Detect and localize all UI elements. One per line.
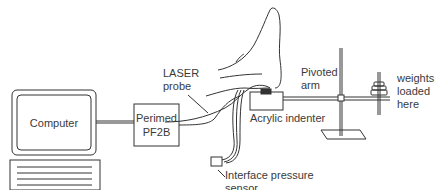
perimed-label: Perimed PF2B [134, 111, 179, 139]
pivoted-arm-label-line1: Pivoted [301, 66, 338, 79]
weights-label-line1: weights [397, 72, 434, 85]
laser-probe-label-line1: LASER [163, 67, 199, 80]
pressure-sensor-label-line1: Interface pressure [225, 169, 314, 182]
laser-probe-label: LASER probe [163, 67, 199, 93]
acrylic-indenter [250, 92, 283, 110]
indenter-contact [261, 89, 271, 94]
pressure-sensor-box [211, 157, 222, 166]
foot-outline [165, 8, 281, 122]
pivoted-arm-label: Pivoted arm [301, 66, 338, 92]
perimed-label-line2: PF2B [134, 125, 179, 139]
leader-pressure-sensor [218, 170, 225, 177]
cable-laser-probe [179, 96, 240, 125]
acrylic-indenter-label: Acrylic indenter [250, 112, 325, 125]
pressure-sensor-label: Interface pressure sensor [225, 169, 314, 190]
computer-keyboard [10, 160, 100, 190]
stand-base [321, 130, 366, 139]
perimed-label-line1: Perimed [134, 111, 179, 125]
weights-label-line2: loaded [397, 85, 434, 98]
weight-disc-2 [372, 86, 386, 90]
pivoted-arm-label-line2: arm [301, 79, 338, 92]
pivot-joint [338, 95, 344, 101]
computer-label: Computer [17, 116, 91, 130]
weights-label-line3: here [397, 98, 434, 111]
diagram-canvas [0, 0, 440, 190]
weight-disc-3 [371, 90, 387, 95]
laser-probe-label-line2: probe [163, 80, 199, 93]
weights-label: weights loaded here [397, 72, 434, 111]
leader-laser-probe [188, 95, 208, 113]
weight-disc-1 [374, 82, 384, 86]
pressure-sensor-label-line2: sensor [225, 182, 314, 190]
